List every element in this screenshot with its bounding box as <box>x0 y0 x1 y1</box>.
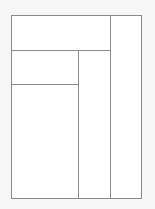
region-right <box>111 16 142 198</box>
divider-horizontal-top <box>12 50 110 51</box>
divider-vertical-right <box>110 16 111 198</box>
region-middle-center <box>79 51 110 198</box>
region-middle-left-top <box>12 51 78 84</box>
divider-horizontal-middle <box>12 84 78 85</box>
layout-frame <box>11 15 142 199</box>
region-middle-left-bottom <box>12 85 78 198</box>
region-top <box>12 16 110 50</box>
divider-vertical-middle <box>78 50 79 199</box>
